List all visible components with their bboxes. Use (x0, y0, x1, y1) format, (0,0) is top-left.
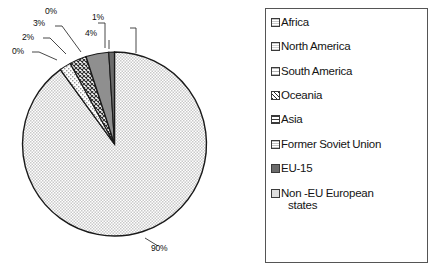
legend-swatch-africa (271, 18, 280, 27)
legend-item-oceania[interactable]: Oceania (271, 89, 423, 101)
legend-item-africa[interactable]: Africa (271, 16, 423, 28)
pie-chart-figure: 0% 2% 3% 0% 4% 1% 90% Africa North Ameri… (0, 0, 445, 278)
legend-label-asia: Asia (281, 113, 302, 125)
pie-label-4-percent: 4% (85, 28, 97, 38)
legend-label-south-america: South America (281, 65, 352, 77)
legend-item-north-america[interactable]: North America (271, 40, 423, 52)
legend-swatch-former-soviet-union (271, 140, 280, 149)
legend-label-former-soviet-union: Former Soviet Union (281, 138, 381, 150)
legend-item-asia[interactable]: Asia (271, 113, 423, 125)
legend-label-oceania: Oceania (281, 89, 322, 101)
pie-label-0-percent-second: 0% (45, 6, 57, 16)
pie-label-3-percent: 3% (33, 18, 45, 28)
legend-label-north-america: North America (281, 40, 350, 52)
legend-label-africa: Africa (281, 16, 309, 28)
legend-item-south-america[interactable]: South America (271, 65, 423, 77)
legend-label-non-eu-line2: states (281, 199, 374, 211)
pie-label-1-percent: 1% (92, 12, 104, 22)
legend-swatch-south-america (271, 67, 280, 76)
chart-legend: Africa North America South America Ocean… (265, 8, 428, 263)
pie-plot-area: 0% 2% 3% 0% 4% 1% 90% (0, 0, 245, 278)
legend-item-list: Africa North America South America Ocean… (271, 16, 423, 258)
legend-item-non-eu-european-states[interactable]: Non -EU European states (271, 187, 423, 211)
legend-label-non-eu-european-states: Non -EU European states (281, 187, 374, 211)
legend-item-eu-15[interactable]: EU-15 (271, 162, 423, 174)
legend-swatch-north-america (271, 42, 280, 51)
legend-item-former-soviet-union[interactable]: Former Soviet Union (271, 138, 423, 150)
legend-swatch-asia (271, 115, 280, 124)
legend-swatch-eu-15 (271, 164, 280, 173)
pie-label-0-percent-first: 0% (12, 46, 24, 56)
legend-label-eu-15: EU-15 (281, 162, 312, 174)
pie-label-90-percent: 90% (151, 243, 167, 253)
legend-swatch-non-eu-european-states (271, 189, 280, 198)
pie-slice-group (22, 52, 206, 236)
legend-label-non-eu-line1: Non -EU European (281, 187, 374, 199)
pie-label-2-percent: 2% (22, 32, 34, 42)
pie-svg (0, 0, 245, 278)
legend-swatch-oceania (271, 91, 280, 100)
